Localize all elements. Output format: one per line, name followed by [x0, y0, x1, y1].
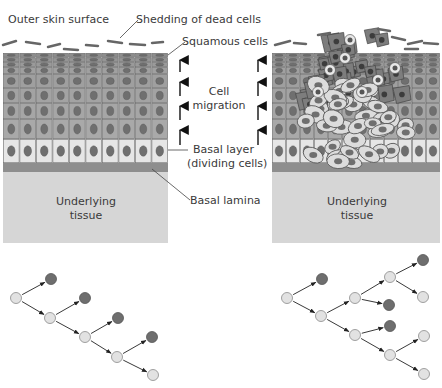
label-outer-skin-surface: Outer skin surface [8, 13, 109, 26]
label-shedding: Shedding of dead cells [136, 13, 261, 26]
differentiated-cell-node [317, 274, 328, 285]
label-underlying-tissue-right-2: tissue [341, 209, 374, 222]
lineage-arrow [22, 282, 45, 294]
label-underlying-tissue-left-2: tissue [70, 209, 103, 222]
lineage-arrow [123, 360, 146, 372]
label-cell-migration-line2: migration [192, 99, 245, 112]
label-underlying-tissue-left-1: Underlying [56, 195, 116, 208]
differentiated-cell-node [385, 321, 396, 332]
differentiated-cell-node [113, 313, 124, 324]
lineage-arrow [56, 301, 79, 314]
stem-cell-node [112, 352, 123, 363]
lineage-arrow [361, 338, 384, 351]
differentiated-cell-node [80, 293, 91, 304]
lineage-arrow [293, 301, 315, 312]
lineage-arrow [362, 299, 382, 303]
stem-cell-node [419, 331, 430, 342]
lineage-arrow [396, 358, 418, 370]
lineage-arrow [22, 302, 44, 315]
label-underlying-tissue-right-1: Underlying [327, 195, 387, 208]
epidermis-diagram: Outer skin surface Shedding of dead cell… [0, 0, 442, 388]
stem-cell-node [385, 350, 396, 361]
lineage-tree-normal [11, 274, 159, 381]
differentiated-cell-node [46, 274, 57, 285]
differentiated-cell-node [384, 300, 395, 311]
lineage-arrow [56, 321, 79, 333]
label-dividing-cells: (dividing cells) [187, 157, 267, 170]
differentiated-cell-node [147, 332, 158, 343]
lineage-arrow [91, 341, 111, 354]
stem-cell-node [282, 293, 293, 304]
lineage-arrow [327, 301, 349, 312]
stem-cell-node [316, 311, 327, 322]
differentiated-cell-node [418, 255, 429, 266]
lineage-arrow [396, 263, 417, 274]
lineage-arrow [362, 328, 383, 334]
lineage-arrow [327, 319, 349, 331]
lineage-arrow [396, 281, 417, 294]
stem-cell-node [350, 293, 361, 304]
label-cell-migration-line1: Cell [209, 85, 230, 98]
lineage-arrow [91, 321, 112, 333]
stem-cell-node [11, 293, 22, 304]
label-basal-layer: Basal layer [193, 143, 254, 156]
stem-cell-node [80, 332, 91, 343]
lineage-arrow [396, 339, 418, 351]
stem-cell-node [419, 369, 430, 380]
label-basal-lamina: Basal lamina [190, 194, 261, 207]
stem-cell-node [45, 313, 56, 324]
lineage-arrow [293, 282, 316, 294]
stem-cell-node [385, 272, 396, 283]
label-squamous-cells: Squamous cells [182, 35, 268, 48]
stem-cell-node [350, 330, 361, 341]
stem-cell-node [148, 370, 159, 381]
lineage-tree-tumor [282, 255, 430, 380]
stem-cell-node [418, 292, 429, 303]
lineage-arrow [361, 281, 384, 295]
lineage-arrow [123, 340, 146, 353]
